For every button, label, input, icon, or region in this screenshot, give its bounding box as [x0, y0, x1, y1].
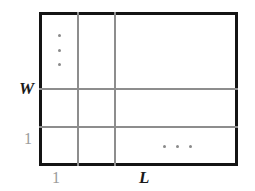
diagram-canvas: W 1 1 L — [0, 0, 255, 191]
column-unit-label: 1 — [52, 170, 60, 186]
ellipsis-dot — [58, 34, 61, 37]
ellipsis-dot — [58, 63, 61, 66]
length-dimension-label: L — [139, 169, 149, 186]
grid-horizontal-divider-1 — [39, 88, 238, 90]
width-dimension-label: W — [19, 80, 34, 97]
ellipsis-dot — [189, 145, 192, 148]
row-unit-label: 1 — [24, 131, 32, 147]
ellipsis-dot — [163, 145, 166, 148]
grid-horizontal-divider-2 — [39, 126, 238, 128]
horizontal-ellipsis-icon — [163, 142, 192, 151]
vertical-ellipsis-icon — [55, 34, 64, 66]
ellipsis-dot — [58, 49, 61, 52]
ellipsis-dot — [176, 145, 179, 148]
